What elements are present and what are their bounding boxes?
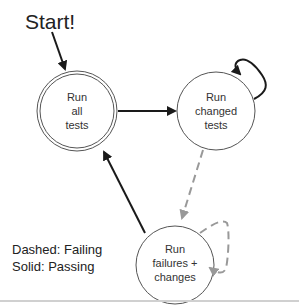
node-run-changed-tests: Run changed tests [177, 72, 255, 150]
start-arrow [52, 32, 65, 69]
node-label-line: Run [67, 91, 87, 103]
node-label-line: Run [206, 91, 226, 103]
node-label-line: changes [154, 271, 196, 283]
node-run-failures-changes: Run failures + changes [136, 226, 214, 304]
legend-dashed: Dashed: Failing [12, 242, 102, 257]
edge-failures-to-all [104, 152, 145, 233]
node-label-line: tests [65, 119, 89, 131]
state-diagram: Start! Run all tests Run changed tests R… [0, 0, 299, 305]
node-label-line: Run [165, 243, 185, 255]
start-label: Start! [25, 10, 75, 33]
node-label-line: all [71, 105, 82, 117]
node-label-line: changed [195, 105, 237, 117]
node-run-all-tests: Run all tests [37, 71, 117, 151]
legend-solid: Solid: Passing [12, 259, 94, 274]
edge-changed-to-failures [182, 150, 203, 218]
node-label-line: failures + [153, 257, 198, 269]
node-label-line: tests [204, 119, 228, 131]
